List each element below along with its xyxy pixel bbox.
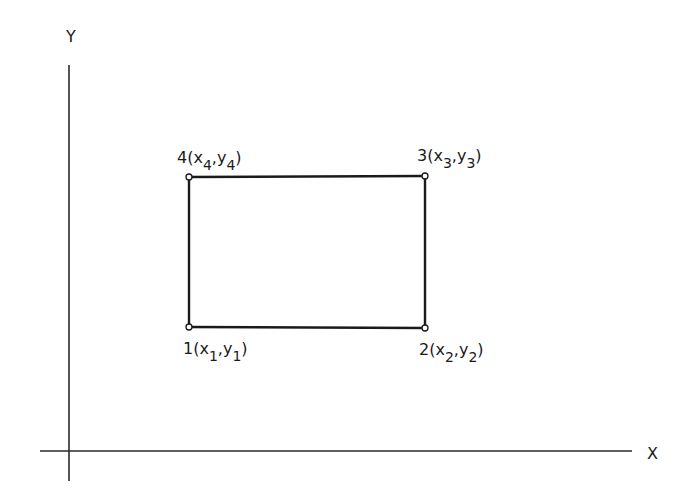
vertex-4-marker — [186, 174, 192, 180]
y-axis-label: Y — [65, 27, 76, 46]
coordinate-diagram: Y X 4(x4,y4) 3(x3,y3) 1(x1,y1) 2(x2,y2) — [0, 0, 690, 497]
edge-1-2 — [189, 327, 425, 328]
vertex-1-marker — [186, 324, 192, 330]
vertex-2-marker — [422, 325, 428, 331]
vertex-3-marker — [422, 173, 428, 179]
vertex-1-label: 1(x1,y1) — [183, 339, 248, 364]
vertex-4-label: 4(x4,y4) — [177, 148, 242, 173]
x-axis-label: X — [647, 444, 658, 463]
vertex-3-label: 3(x3,y3) — [417, 146, 482, 171]
edge-3-4 — [189, 176, 425, 177]
vertex-2-label: 2(x2,y2) — [419, 340, 484, 365]
